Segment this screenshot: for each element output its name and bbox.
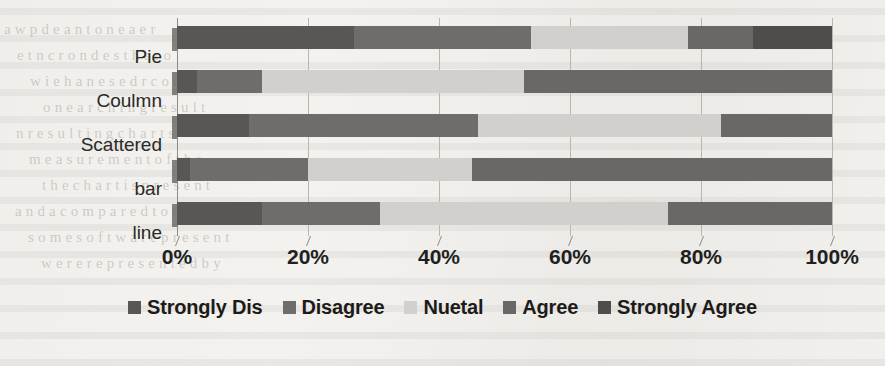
legend-item[interactable]: Disagree — [283, 296, 385, 319]
bar-segment — [721, 114, 832, 137]
bar-row-shadow — [172, 160, 177, 183]
bar-row-shadow — [172, 28, 177, 51]
y-axis-category-labels: PieCoulmnScatteredbarline — [0, 18, 170, 236]
legend-swatch-icon — [128, 301, 141, 314]
x-tick-label: 60% — [549, 245, 591, 269]
legend-swatch-icon — [283, 301, 296, 314]
y-axis-label-coulmn: Coulmn — [97, 89, 162, 112]
bar-segment — [262, 70, 524, 93]
bar-segment — [177, 202, 262, 225]
bar-segment — [197, 70, 263, 93]
bar-segment — [472, 158, 832, 181]
x-axis-tick-labels: 0%20%40%60%80%100% — [0, 245, 885, 275]
x-tick-label: 40% — [418, 245, 460, 269]
chart-legend: Strongly DisDisagreeNuetalAgreeStrongly … — [0, 296, 885, 319]
bar-row — [177, 114, 832, 137]
legend-swatch-icon — [404, 301, 417, 314]
bar-row-shadow — [172, 72, 177, 95]
legend-item[interactable]: Strongly Dis — [128, 296, 262, 319]
y-axis-label-bar: bar — [135, 177, 162, 200]
legend-item[interactable]: Strongly Agree — [598, 296, 757, 319]
bar-segment — [177, 114, 249, 137]
bar-segment — [177, 158, 190, 181]
bar-segment — [177, 26, 354, 49]
bar-segment — [249, 114, 478, 137]
bar-segment — [688, 26, 754, 49]
bar-segment — [380, 202, 668, 225]
bar-segment — [478, 114, 720, 137]
y-axis-label-pie: Pie — [135, 45, 162, 68]
bar-segment — [524, 70, 832, 93]
bar-row-shadow — [172, 116, 177, 139]
legend-item[interactable]: Agree — [503, 296, 578, 319]
legend-label: Agree — [522, 296, 578, 319]
bar-segment — [262, 202, 380, 225]
bar-row — [177, 26, 832, 49]
bar-segment — [190, 158, 308, 181]
bar-row — [177, 202, 832, 225]
bar-segment — [354, 26, 531, 49]
legend-item[interactable]: Nuetal — [404, 296, 483, 319]
legend-label: Strongly Dis — [147, 296, 262, 319]
bar-segment — [668, 202, 832, 225]
bar-segment — [531, 26, 688, 49]
y-axis-label-line: line — [132, 221, 162, 244]
legend-swatch-icon — [503, 301, 516, 314]
bar-segment — [308, 158, 472, 181]
bar-row-shadow — [172, 204, 177, 227]
bar-row — [177, 158, 832, 181]
x-tick-label: 80% — [680, 245, 722, 269]
bar-segment — [177, 70, 197, 93]
bar-segment — [753, 26, 832, 49]
x-tick-label: 20% — [287, 245, 329, 269]
legend-label: Disagree — [302, 296, 385, 319]
legend-label: Strongly Agree — [617, 296, 757, 319]
y-axis-label-scattered: Scattered — [81, 133, 162, 156]
bar-row — [177, 70, 832, 93]
legend-swatch-icon — [598, 301, 611, 314]
x-tick-label: 0% — [162, 245, 192, 269]
plot-area — [177, 18, 832, 236]
stacked-bar-chart: PieCoulmnScatteredbarline 0%20%40%60%80%… — [0, 0, 885, 366]
x-tick-label: 100% — [805, 245, 859, 269]
gridline — [832, 18, 833, 236]
legend-label: Nuetal — [423, 296, 483, 319]
